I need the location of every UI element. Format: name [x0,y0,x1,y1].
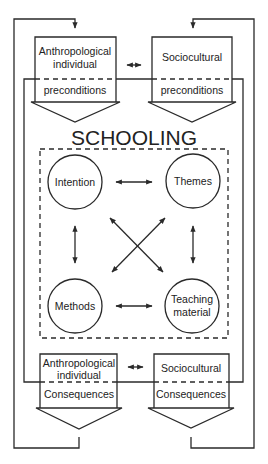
node-label-themes: Themes [174,175,212,187]
precondition-left-line3: preconditions [44,84,106,96]
node-label-methods: Methods [55,300,95,312]
consequence-left-line3: Consequences [44,388,114,400]
diagram-title: SCHOOLING [71,126,197,149]
node-label-teaching-line2: material [173,306,210,318]
consequence-left-line1: Anthropological [43,357,115,369]
precondition-left-line2: individual [53,58,97,70]
arrow-intention-teaching [110,218,163,272]
node-label-teaching-line1: Teaching [171,293,213,305]
precondition-left-line1: Anthropological [39,45,111,57]
consequence-right-line3: Consequences [156,388,226,400]
node-label-intention: Intention [55,176,95,188]
consequence-left-line2: individual [57,369,101,381]
consequence-right-line1: Sociocultural [161,362,221,374]
arrow-themes-methods [112,218,165,272]
precondition-right-line1: Sociocultural [162,51,222,63]
precondition-box-sociocultural [148,37,236,122]
schooling-diagram: Anthropological individual preconditions… [0,0,268,464]
inner-frame-line [24,79,243,382]
precondition-right-line3: preconditions [161,84,223,96]
